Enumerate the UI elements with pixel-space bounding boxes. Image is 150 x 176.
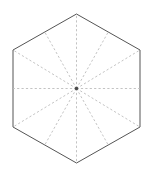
hexagon-center-dot — [75, 87, 79, 91]
hexagon-diagram-svg — [0, 0, 150, 176]
hexagon-diagram-canvas — [0, 0, 150, 176]
